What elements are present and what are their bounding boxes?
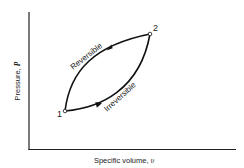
point-2-marker [148,32,152,36]
point-2-label: 2 [153,23,158,33]
point-1-marker [63,109,67,113]
irreversible-path [65,34,150,111]
pv-diagram: 1 2 Reversible Irreversible Specific vol… [0,0,244,168]
reversible-label: Reversible [69,41,105,72]
x-axis-label: Specific volume, υ [94,156,155,165]
irreversible-label: Irreversible [102,80,138,114]
point-1-label: 1 [57,109,62,119]
y-axis-label: Pressure, P [13,61,22,100]
